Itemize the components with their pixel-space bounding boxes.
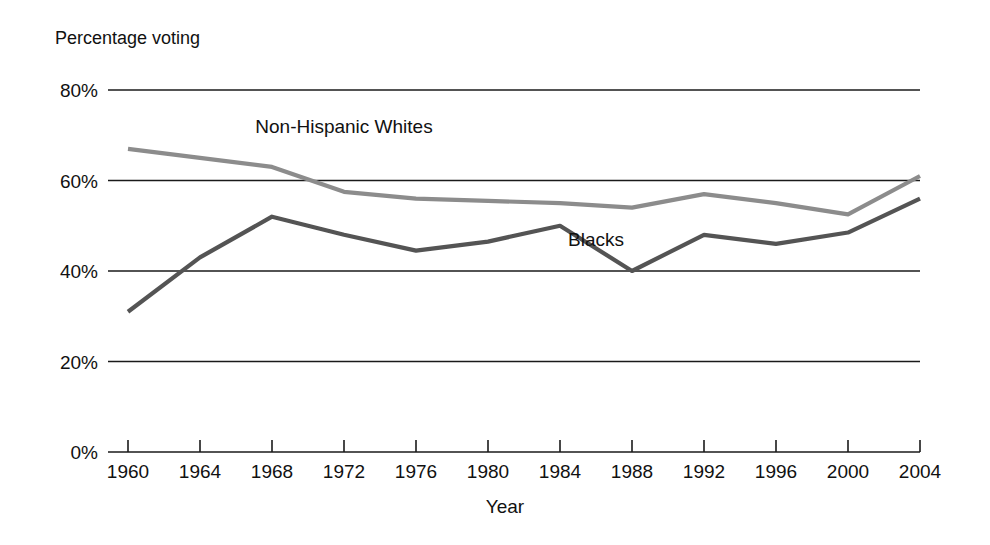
series-labels: Non-Hispanic WhitesBlacks xyxy=(255,116,624,250)
y-axis-tick-label: 0% xyxy=(71,442,99,463)
y-axis-tick-label: 80% xyxy=(60,80,98,101)
series-line-non-hispanic-whites xyxy=(128,149,920,215)
x-axis-tick-label: 1984 xyxy=(539,461,582,482)
series-label-blacks: Blacks xyxy=(568,229,624,250)
chart-title: Percentage voting xyxy=(55,28,200,48)
x-axis-tick-label: 1972 xyxy=(323,461,365,482)
gridlines xyxy=(108,90,920,362)
x-axis-tick-label: 1988 xyxy=(611,461,653,482)
y-axis-tick-label: 60% xyxy=(60,171,98,192)
x-axis-tick-label: 1976 xyxy=(395,461,437,482)
y-axis-tick-labels: 0%20%40%60%80% xyxy=(60,80,98,463)
chart-figure: Percentage voting 0%20%40%60%80% 1960196… xyxy=(0,0,990,545)
series-label-non-hispanic-whites: Non-Hispanic Whites xyxy=(255,116,432,137)
x-axis-tick-label: 1996 xyxy=(755,461,797,482)
x-axis-tick-label: 1960 xyxy=(107,461,149,482)
x-axis-tick-label: 2000 xyxy=(827,461,869,482)
y-axis-tick-label: 40% xyxy=(60,261,98,282)
x-axis-tick-label: 1968 xyxy=(251,461,293,482)
x-axis-tick-label: 1964 xyxy=(179,461,222,482)
x-axis-tick-label: 1980 xyxy=(467,461,509,482)
x-axis-tick-labels: 1960196419681972197619801984198819921996… xyxy=(107,461,942,482)
x-axis-title: Year xyxy=(486,496,525,517)
data-series xyxy=(128,149,920,312)
x-axis-tick-label: 2004 xyxy=(899,461,942,482)
y-axis-tick-label: 20% xyxy=(60,352,98,373)
x-axis-tick-label: 1992 xyxy=(683,461,725,482)
line-chart: Percentage voting 0%20%40%60%80% 1960196… xyxy=(0,0,990,545)
x-axis xyxy=(108,440,920,452)
series-line-blacks xyxy=(128,199,920,312)
